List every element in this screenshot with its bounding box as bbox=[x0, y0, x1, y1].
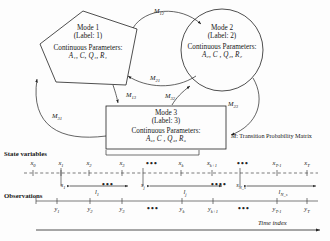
segment-ellipsis-right: •••• bbox=[211, 181, 227, 190]
figure-canvas: Mode 1 (Label: 1) Continuous Parameters:… bbox=[0, 0, 330, 241]
mode-1-params-values: A₁, C, Q₁, R₁ bbox=[48, 52, 128, 60]
transition-arc-m31 bbox=[36, 79, 106, 137]
state-tick-x0: x0 bbox=[30, 159, 35, 168]
transition-label-m23: M23 bbox=[228, 100, 238, 109]
mode-2-title: Mode 2 bbox=[182, 24, 262, 32]
transition-label-m12: M12 bbox=[154, 7, 164, 16]
mode-3-label: (Label: 3) bbox=[106, 117, 226, 125]
state-tick-x1: x1 bbox=[58, 159, 63, 168]
mode-3-params-values: A₃, C , Q₃, R₃ bbox=[106, 135, 226, 143]
mode-1-content: Mode 1 (Label: 1) Continuous Parameters:… bbox=[48, 24, 128, 60]
state-tick-x3: x3 bbox=[119, 159, 124, 168]
state-tick-xk1: xk+1 bbox=[207, 159, 217, 168]
mode-3-params-heading: Continuous Parameters: bbox=[106, 127, 226, 135]
observation-tick-yT1: yT-1 bbox=[273, 205, 282, 214]
state-bracket bbox=[106, 150, 199, 155]
mode-1-title: Mode 1 bbox=[48, 24, 128, 32]
state-ellipsis-left: ••• bbox=[146, 160, 158, 169]
transition-label-m31: M31 bbox=[52, 112, 62, 121]
observation-ellipsis-right: ••• bbox=[238, 205, 250, 214]
mode-2-label: (Label: 2) bbox=[182, 32, 262, 40]
mode-2-params-heading: Continuous Parameters: bbox=[182, 43, 262, 51]
observation-tick-y1: y1 bbox=[54, 205, 59, 214]
observation-ellipsis-left: ••• bbox=[147, 205, 159, 214]
state-tick-x2: x2 bbox=[86, 159, 91, 168]
observation-tick-y2: y2 bbox=[87, 205, 92, 214]
legend-transition-matrix: M: Transition Probability Matrix bbox=[231, 133, 312, 140]
mode-1-params-heading: Continuous Parameters: bbox=[48, 44, 128, 52]
observation-tick-yT: yT bbox=[304, 205, 309, 214]
segment-tick-s1: s1 bbox=[61, 181, 66, 190]
transition-arc-m13 bbox=[113, 85, 118, 103]
state-tick-xT1: xT-1 bbox=[273, 159, 282, 168]
state-tick-xk: xk bbox=[179, 159, 184, 168]
transition-label-m21: M21 bbox=[150, 74, 160, 83]
mode-2-params-values: A₂, C , Q₂, R₂ bbox=[182, 51, 262, 59]
segment-ellipsis-left: ••• bbox=[102, 181, 114, 190]
observation-tick-yk1: yk+1 bbox=[208, 205, 218, 214]
observation-tick-y3: y3 bbox=[119, 205, 124, 214]
mode-1-label: (Label: 1) bbox=[48, 32, 128, 40]
state-ellipsis-right: ••• bbox=[237, 160, 249, 169]
mode-3-title: Mode 3 bbox=[106, 109, 226, 117]
transition-label-m32: M32 bbox=[165, 92, 175, 101]
segment-duration-lj: lj bbox=[183, 188, 186, 197]
mode-3-content: Mode 3 (Label: 3) Continuous Parameters:… bbox=[106, 109, 226, 143]
segment-tick-sNs: sN_s bbox=[236, 181, 246, 190]
transition-label-m13: M13 bbox=[126, 91, 136, 100]
state-tick-xT: xT bbox=[304, 159, 309, 168]
observations-row-title: Observations bbox=[4, 192, 43, 200]
segment-duration-l1: l1 bbox=[95, 188, 99, 197]
state-variables-row-title: State variables bbox=[4, 150, 47, 158]
time-index-label: Time index bbox=[258, 219, 287, 226]
observation-tick-yk: yk bbox=[180, 205, 185, 214]
transition-arc-m21 bbox=[128, 76, 196, 86]
segment-duration-lNs: lN_s bbox=[279, 188, 288, 197]
mode-2-content: Mode 2 (Label: 2) Continuous Parameters:… bbox=[182, 24, 262, 59]
legend-text: : Transition Probability Matrix bbox=[236, 132, 312, 139]
segment-tick-sj: sj bbox=[141, 181, 145, 190]
